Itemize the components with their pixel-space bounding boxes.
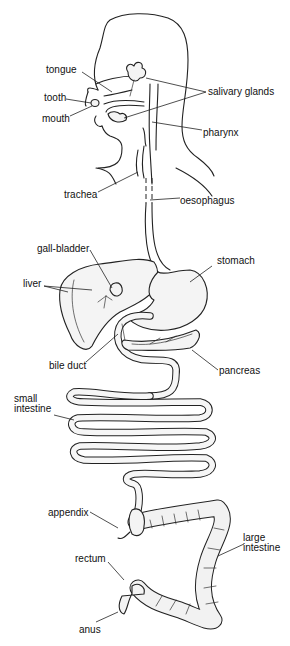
label-mouth: mouth [42,113,70,124]
label-oesophagus: oesophagus [180,195,235,206]
label-salivary-glands: salivary glands [208,86,274,97]
large-intestine-shape [118,508,224,621]
salivary-gland-upper [127,62,146,81]
caecum-shape [129,509,144,536]
label-tooth: tooth [44,92,66,103]
label-tongue: tongue [46,64,77,75]
tooth-shape [91,100,99,107]
label-stomach: stomach [217,255,255,266]
small-intestine-shape [70,392,212,510]
label-pharynx: pharynx [203,127,239,138]
label-bile-duct: bile duct [49,360,86,371]
pancreas-shape [122,330,199,351]
label-anus: anus [79,624,101,635]
label-small-intestine-2: intestine [14,403,51,414]
label-gall-bladder: gall-bladder [37,243,89,254]
mouth-structures [91,62,158,184]
liver-shape [60,259,158,349]
label-liver: liver [23,278,41,289]
label-pancreas: pancreas [219,365,260,376]
salivary-gland-lower [108,112,127,122]
label-rectum: rectum [75,553,106,564]
label-trachea: trachea [64,189,97,200]
label-appendix: appendix [48,507,89,518]
label-large-intestine-2: intestine [243,542,280,553]
gall-bladder-shape [110,283,122,296]
